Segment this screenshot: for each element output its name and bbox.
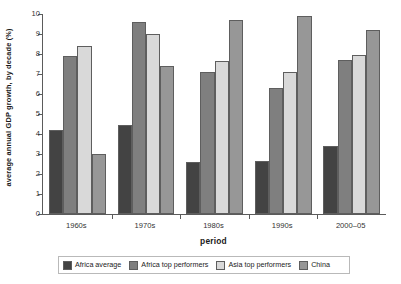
bar-group <box>43 14 112 214</box>
bar-group <box>180 14 249 214</box>
bar-group <box>249 14 318 214</box>
bar <box>77 46 91 214</box>
bar <box>229 20 243 214</box>
x-axis-tick <box>317 214 318 219</box>
x-axis-tick <box>180 214 181 219</box>
bar-group <box>112 14 181 214</box>
legend-swatch-icon <box>63 261 72 270</box>
bar <box>323 146 337 214</box>
x-axis-tick <box>249 214 250 219</box>
bar <box>215 61 229 214</box>
bar <box>297 16 311 214</box>
legend-item-label: China <box>311 261 330 268</box>
bar <box>146 34 160 214</box>
y-axis-tick-label: 0 <box>10 210 40 218</box>
legend-item[interactable]: Africa average <box>63 261 121 270</box>
x-axis-title-text: period <box>200 236 227 246</box>
y-axis-tick-label: 2 <box>10 170 40 178</box>
legend-swatch-icon <box>216 261 225 270</box>
bar <box>269 88 283 214</box>
y-axis-tick-label: 4 <box>10 130 40 138</box>
bar <box>160 66 174 214</box>
y-axis-tick-label: 5 <box>10 110 40 118</box>
bar <box>118 125 132 214</box>
bar <box>92 154 106 214</box>
bar <box>255 161 269 214</box>
x-axis-tick <box>112 214 113 219</box>
bar <box>63 56 77 214</box>
y-axis-tick-label: 6 <box>10 90 40 98</box>
x-axis-tick-label: 1960s <box>42 222 111 230</box>
x-axis-tick-label: 1980s <box>179 222 248 230</box>
chart-legend: Africa averageAfrica top performersAsia … <box>58 256 350 274</box>
bar <box>132 22 146 214</box>
bar <box>49 130 63 214</box>
legend-item[interactable]: China <box>299 261 330 270</box>
legend-swatch-icon <box>129 261 138 270</box>
bar <box>338 60 352 214</box>
legend-item-label: Africa top performers <box>141 261 208 268</box>
plot-area: 012345678910 <box>42 14 386 215</box>
y-axis-tick-label: 8 <box>10 50 40 58</box>
legend-swatch-icon <box>299 261 308 270</box>
y-axis-tick-label: 10 <box>10 10 40 18</box>
y-axis-tick-label: 3 <box>10 150 40 158</box>
legend-item-label: Asia top performers <box>228 261 291 268</box>
legend-item-label: Africa average <box>75 261 121 268</box>
x-axis-tick-label: 1970s <box>111 222 180 230</box>
bar-chart-figure: average annual GDP growth, by decade (%)… <box>0 0 401 284</box>
bar <box>352 55 366 214</box>
bar-group <box>317 14 386 214</box>
bar <box>366 30 380 214</box>
y-axis-tick-label: 1 <box>10 190 40 198</box>
x-axis-tick-label: 2000–05 <box>316 222 385 230</box>
x-axis-tick-label: 1990s <box>248 222 317 230</box>
bar <box>283 72 297 214</box>
legend-item[interactable]: Asia top performers <box>216 261 291 270</box>
x-axis-title: period <box>42 236 385 246</box>
bar <box>186 162 200 214</box>
y-axis-tick-label: 9 <box>10 30 40 38</box>
y-axis-tick-label: 7 <box>10 70 40 78</box>
legend-item[interactable]: Africa top performers <box>129 261 208 270</box>
bar <box>200 72 214 214</box>
